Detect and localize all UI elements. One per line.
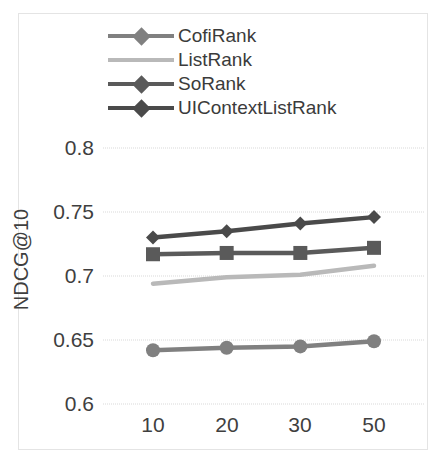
data-point-uicontextlistrank xyxy=(146,231,160,245)
x-tick-30: 30 xyxy=(270,414,330,435)
series-line-cofirank xyxy=(153,341,374,350)
plot-area xyxy=(0,0,445,459)
data-point-sorank xyxy=(146,247,160,261)
x-tick-10: 10 xyxy=(123,414,183,435)
series-line-uicontextlistrank xyxy=(153,217,374,237)
data-point-uicontextlistrank xyxy=(220,224,234,238)
data-point-sorank xyxy=(293,246,307,260)
data-point-sorank xyxy=(367,241,381,255)
chart-container: CofiRank ListRank SoRank UIContextListRa… xyxy=(0,0,445,459)
x-tick-50: 50 xyxy=(344,414,404,435)
series-line-sorank xyxy=(153,248,374,254)
data-point-uicontextlistrank xyxy=(293,217,307,231)
data-point-cofirank xyxy=(220,341,234,355)
data-point-cofirank xyxy=(146,343,160,357)
data-point-cofirank xyxy=(293,339,307,353)
data-point-cofirank xyxy=(367,334,381,348)
y-axis-title: NDCG@10 xyxy=(10,205,33,315)
x-tick-20: 20 xyxy=(197,414,257,435)
series-line-listrank xyxy=(153,266,374,284)
data-point-sorank xyxy=(220,246,234,260)
